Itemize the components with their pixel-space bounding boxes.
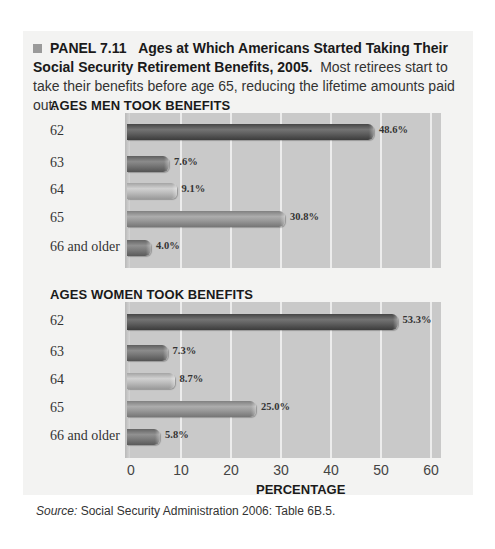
women-bar [127,314,398,330]
women-value-label: 53.3% [403,314,432,325]
men-value-label: 48.6% [379,124,408,135]
x-tick-label: 40 [323,462,339,478]
men-value-label: 9.1% [182,183,206,194]
women-category-label: 63 [50,344,64,360]
men-category-label: 63 [50,155,64,171]
women-value-label: 7.3% [173,345,197,356]
x-tick-label: 10 [173,462,189,478]
men-bar [127,211,285,227]
men-category-label: 64 [50,182,64,198]
women-chart-title: AGES WOMEN TOOK BENEFITS [50,287,253,302]
men-value-label: 4.0% [156,240,180,251]
men-value-label: 7.6% [174,156,198,167]
men-category-label: 62 [50,123,64,139]
source-note: Source: Social Security Administration 2… [36,504,335,518]
women-value-label: 5.8% [165,429,189,440]
men-category-label: 66 and older [50,239,120,255]
men-bar [127,156,169,172]
women-category-label: 62 [50,313,64,329]
x-tick-label: 20 [223,462,239,478]
gridline [380,113,382,268]
men-bar [127,240,151,256]
x-tick-label: 0 [127,462,135,478]
women-bar [127,373,175,389]
source-text: Social Security Administration 2006: Tab… [77,504,335,518]
women-value-label: 8.7% [180,373,204,384]
x-tick-label: 50 [373,462,389,478]
men-category-label: 65 [50,210,64,226]
gridline [430,113,432,268]
women-bar [127,401,256,417]
source-label: Source: [36,504,77,518]
women-bar [127,345,168,361]
x-tick-label: 30 [273,462,289,478]
men-bar [127,183,177,199]
men-value-label: 30.8% [290,211,319,222]
panel-label: PANEL 7.11 [50,40,127,56]
x-axis-label: PERCENTAGE [256,482,345,497]
men-bar [127,124,374,140]
women-category-label: 64 [50,372,64,388]
women-value-label: 25.0% [261,401,290,412]
men-chart-title: AGES MEN TOOK BENEFITS [50,98,230,113]
square-bullet-icon [33,44,42,53]
gridline [430,302,432,458]
women-category-label: 65 [50,400,64,416]
x-tick-label: 60 [423,462,439,478]
women-category-label: 66 and older [50,428,120,444]
women-bar [127,429,160,445]
